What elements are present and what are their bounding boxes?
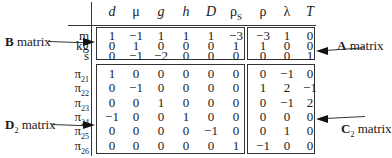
row-label-text: π (74, 95, 81, 110)
matrix-cell: 0 (149, 111, 173, 122)
matrix-cell: −1 (124, 82, 148, 93)
column-header: h (174, 4, 198, 20)
column-header: g (149, 4, 173, 20)
column-header-label: d (109, 4, 116, 19)
matrix-cell: 0 (174, 140, 198, 151)
matrix-cell: 0 (100, 82, 124, 93)
matrix-cell: 1 (275, 125, 299, 136)
matrix-cell: 0 (275, 50, 299, 61)
matrix-cell: 0 (174, 125, 198, 136)
c2-arrow-line (325, 116, 365, 119)
matrix-cell: 0 (298, 68, 322, 79)
matrix-cell: 1 (251, 82, 275, 93)
header-divider (68, 25, 316, 26)
matrix-cell: 0 (224, 50, 248, 61)
d2-matrix-callout-symbol: D (5, 117, 14, 132)
matrix-cell: 0 (298, 125, 322, 136)
c2-arrow-head-icon (316, 115, 328, 123)
matrix-cell: 0 (275, 140, 299, 151)
matrix-cell: 0 (251, 125, 275, 136)
matrix-cell: −1 (199, 125, 223, 136)
matrix-cell: 0 (174, 68, 198, 79)
row-label-text: s (84, 48, 89, 63)
matrix-cell: 0 (199, 68, 223, 79)
matrix-cell: 0 (149, 125, 173, 136)
matrix-cell: 0 (100, 140, 124, 151)
matrix-cell: 0 (124, 125, 148, 136)
matrix-cell: 0 (251, 111, 275, 122)
d2-matrix-callout-text: matrix (18, 117, 55, 132)
a-matrix-callout: A matrix (337, 38, 384, 54)
column-header-label: g (158, 4, 165, 19)
row-label-text: π (74, 66, 81, 81)
matrix-cell: −2 (149, 50, 173, 61)
c2-matrix-callout: C2 matrix (341, 121, 392, 139)
matrix-cell: 0 (149, 140, 173, 151)
row-label-text: π (74, 80, 81, 95)
b-matrix-callout: B matrix (5, 34, 51, 50)
column-header: ρS (224, 4, 248, 22)
b-arrow-line (48, 41, 86, 43)
column-header-label: λ (284, 4, 291, 19)
matrix-cell: 0 (174, 82, 198, 93)
column-header: ρ (251, 4, 275, 20)
matrix-cell: 1 (224, 140, 248, 151)
matrix-cell: −1 (275, 68, 299, 79)
matrix-cell: 0 (149, 68, 173, 79)
c2-matrix-callout-symbol: C (341, 121, 350, 136)
a-arrow-head-icon (316, 47, 328, 55)
matrix-cell: 0 (199, 97, 223, 108)
row-label-subscript: 26 (81, 146, 89, 155)
column-header-label: ρ (230, 4, 237, 19)
matrix-cell: 0 (100, 50, 124, 61)
matrix-cell: 0 (251, 68, 275, 79)
column-header-label: ρ (260, 4, 267, 19)
matrix-cell: 0 (224, 68, 248, 79)
a-matrix-callout-symbol: A (337, 38, 346, 53)
matrix-cell: 1 (149, 97, 173, 108)
matrix-cell: −1 (275, 97, 299, 108)
column-header: λ (275, 4, 299, 20)
column-header-label: D (206, 4, 216, 19)
row-label-text: π (74, 138, 81, 153)
row-label-text: π (74, 109, 81, 124)
matrix-cell: 0 (124, 97, 148, 108)
column-header: D (199, 4, 223, 20)
d2-arrow-line (52, 124, 86, 126)
matrix-cell: 0 (224, 125, 248, 136)
matrix-cell: 0 (100, 125, 124, 136)
matrix-cell: −1 (124, 50, 148, 61)
matrix-cell: 0 (251, 97, 275, 108)
d2-arrow-head-icon (83, 121, 95, 129)
matrix-cell: −1 (298, 82, 322, 93)
b-matrix-callout-text: matrix (14, 34, 51, 49)
matrix-cell: 0 (174, 50, 198, 61)
matrix-cell: 0 (199, 50, 223, 61)
matrix-cell: 0 (224, 97, 248, 108)
matrix-cell: 0 (251, 50, 275, 61)
matrix-cell: 1 (100, 68, 124, 79)
d2-matrix-callout: D2 matrix (5, 117, 56, 135)
matrix-cell: 0 (224, 82, 248, 93)
matrix-cell: 0 (224, 111, 248, 122)
column-header: μ (124, 4, 148, 20)
matrix-cell: 0 (199, 140, 223, 151)
matrix-cell: 1 (174, 111, 198, 122)
matrix-cell: −1 (251, 140, 275, 151)
matrix-cell: 2 (275, 82, 299, 93)
column-header: T (298, 4, 322, 20)
matrix-cell: 0 (298, 140, 322, 151)
matrix-cell: 0 (100, 97, 124, 108)
column-header-label: h (183, 4, 190, 19)
matrix-cell: 0 (124, 68, 148, 79)
c2-matrix-callout-text: matrix (354, 121, 391, 136)
matrix-cell: 0 (199, 111, 223, 122)
column-header: d (100, 4, 124, 20)
matrix-cell: 0 (174, 97, 198, 108)
column-header-label: T (306, 4, 314, 19)
matrix-cell: 0 (149, 82, 173, 93)
a-matrix-callout-text: matrix (346, 38, 383, 53)
b-arrow-head-icon (83, 38, 95, 46)
matrix-cell: 2 (298, 97, 322, 108)
matrix-cell: −1 (100, 111, 124, 122)
